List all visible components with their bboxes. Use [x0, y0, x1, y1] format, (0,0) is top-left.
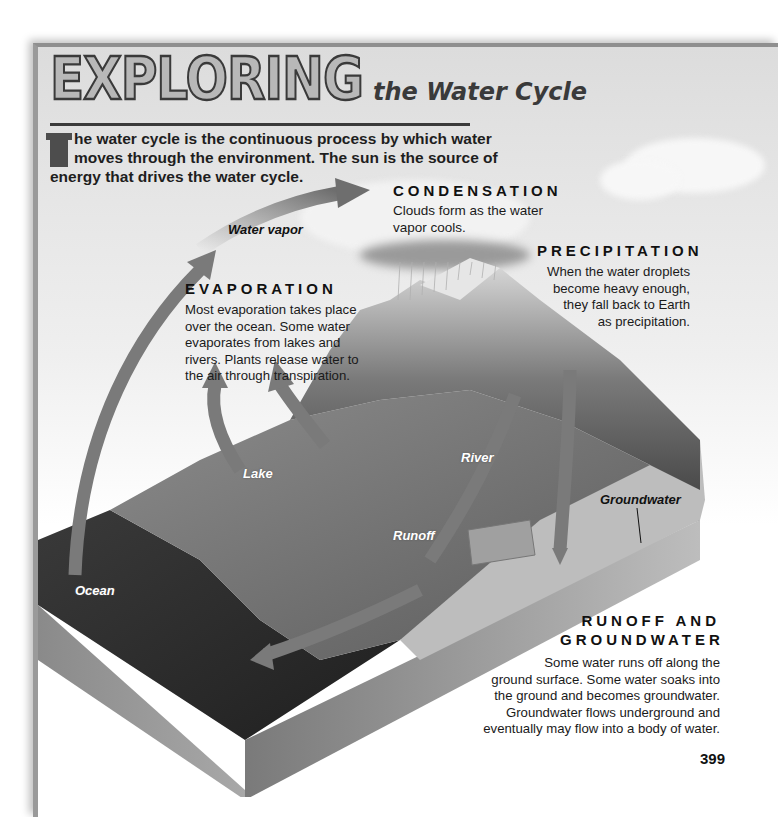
- evaporation-line-5: the air through transpiration.: [185, 368, 385, 385]
- runoff-heading-line-1: RUNOFF AND: [560, 611, 720, 630]
- precipitation-heading: PRECIPITATION: [537, 242, 703, 259]
- precipitation-line-1: When the water droplets: [520, 264, 690, 281]
- title: EXPLORING the Water Cycle: [50, 58, 587, 108]
- runoff-line-4: Groundwater flows underground and: [455, 705, 720, 722]
- evaporation-line-3: evaporates from lakes and: [185, 335, 385, 352]
- precipitation-line-4: as precipitation.: [520, 314, 690, 331]
- evaporation-line-4: rivers. Plants release water to: [185, 352, 385, 369]
- title-sub: the Water Cycle: [373, 78, 587, 106]
- evaporation-heading: EVAPORATION: [185, 280, 337, 297]
- runoff-line-2: ground surface. Some water soaks into: [455, 672, 720, 689]
- title-rule: [50, 123, 470, 126]
- page-number: 399: [700, 750, 725, 767]
- runoff-groundwater-heading: RUNOFF AND GROUNDWATER: [560, 611, 720, 649]
- label-lake: Lake: [243, 466, 273, 481]
- condensation-body: Clouds form as the water vapor cools.: [393, 203, 563, 236]
- precipitation-body: When the water droplets become heavy eno…: [520, 264, 690, 330]
- label-groundwater: Groundwater: [600, 492, 681, 507]
- title-main: EXPLORING: [50, 49, 363, 108]
- runoff-line-1: Some water runs off along the: [455, 655, 720, 672]
- label-water-vapor: Water vapor: [228, 222, 303, 237]
- evaporation-line-2: over the ocean. Some water: [185, 319, 385, 336]
- label-ocean: Ocean: [75, 583, 115, 598]
- label-river: River: [461, 450, 494, 465]
- intro-paragraph: he water cycle is the continuous process…: [50, 129, 520, 186]
- evaporation-body: Most evaporation takes place over the oc…: [185, 302, 385, 385]
- runoff-heading-line-2: GROUNDWATER: [560, 630, 720, 649]
- drop-cap: [50, 133, 68, 167]
- runoff-line-3: the ground and becomes groundwater.: [455, 688, 720, 705]
- label-runoff: Runoff: [393, 528, 435, 543]
- evaporation-line-1: Most evaporation takes place: [185, 302, 385, 319]
- precipitation-line-3: they fall back to Earth: [520, 297, 690, 314]
- runoff-groundwater-body: Some water runs off along the ground sur…: [455, 655, 720, 738]
- runoff-line-5: eventually may flow into a body of water…: [455, 721, 720, 738]
- precipitation-line-2: become heavy enough,: [520, 281, 690, 298]
- intro-text: he water cycle is the continuous process…: [50, 130, 498, 185]
- condensation-heading: CONDENSATION: [393, 182, 562, 199]
